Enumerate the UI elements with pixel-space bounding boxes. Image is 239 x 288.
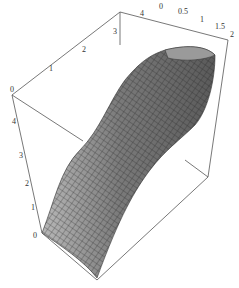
svg-text:3: 3 (113, 27, 117, 36)
y-axis-ticks: 0 0.5 1 1.5 2 (159, 2, 234, 39)
svg-text:1: 1 (49, 64, 53, 73)
svg-text:1.5: 1.5 (215, 22, 225, 31)
svg-text:0: 0 (159, 2, 163, 11)
svg-text:2: 2 (25, 179, 29, 188)
svg-text:1: 1 (31, 203, 35, 212)
surface-plot: 0 1 2 3 4 0 0.5 1 1.5 2 0 1 2 3 4 (0, 0, 239, 288)
svg-text:1: 1 (200, 15, 204, 24)
svg-text:4: 4 (140, 9, 144, 18)
svg-text:2: 2 (230, 30, 234, 39)
svg-text:4: 4 (12, 117, 16, 126)
svg-text:3: 3 (19, 151, 23, 160)
svg-text:2: 2 (82, 45, 86, 54)
z-axis-ticks: 0 1 2 3 4 (12, 117, 37, 240)
surface (42, 47, 215, 278)
svg-text:0: 0 (33, 231, 37, 240)
svg-text:0: 0 (10, 85, 14, 94)
svg-text:0.5: 0.5 (178, 7, 188, 16)
